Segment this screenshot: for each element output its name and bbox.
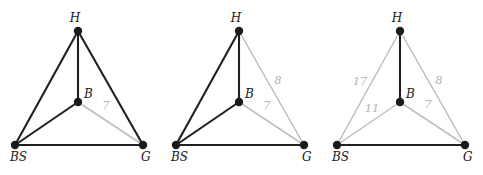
panel-1: HBBSG7 (0, 0, 161, 175)
node-label-g: G (302, 150, 312, 164)
edge-weight-b-g: 7 (263, 98, 271, 112)
node-h (74, 27, 82, 35)
node-label-b: B (405, 87, 415, 101)
edge-b-g (400, 102, 465, 145)
panel-2-canvas: HBBSG87 (161, 0, 322, 175)
node-label-g: G (141, 150, 151, 164)
node-g (139, 141, 147, 149)
edge-weight-b-bs: 11 (365, 101, 380, 115)
node-h (396, 27, 404, 35)
node-b (74, 98, 82, 106)
edge-weight-b-g: 7 (424, 97, 432, 111)
edge-weight-h-g: 8 (274, 73, 281, 87)
edge-weight-h-bs: 17 (353, 74, 368, 88)
node-label-bs: BS (9, 150, 27, 164)
node-label-b: B (83, 87, 93, 101)
edge-b-bs (176, 102, 239, 145)
edge-weight-h-g: 8 (435, 73, 442, 87)
panel-2: HBBSG87 (161, 0, 322, 175)
edge-h-bs (15, 31, 78, 145)
node-label-h: H (69, 11, 81, 25)
edge-h-bs (337, 31, 400, 145)
edge-weight-b-g: 7 (102, 98, 110, 112)
panel-3: HBBSG178117 (322, 0, 483, 175)
node-bs (11, 141, 19, 149)
graph-figure: HBBSG7HBBSG87HBBSG178117 (0, 0, 483, 175)
node-h (235, 27, 243, 35)
panel-1-canvas: HBBSG7 (0, 0, 161, 175)
node-g (300, 141, 308, 149)
edge-b-g (78, 102, 143, 145)
edge-h-bs (176, 31, 239, 145)
node-bs (333, 141, 341, 149)
panel-3-canvas: HBBSG178117 (322, 0, 483, 175)
node-b (396, 98, 404, 106)
node-b (235, 98, 243, 106)
node-label-b: B (244, 87, 254, 101)
node-label-bs: BS (170, 150, 188, 164)
node-label-h: H (391, 11, 403, 25)
edge-b-bs (15, 102, 78, 145)
node-label-bs: BS (331, 150, 349, 164)
node-g (461, 141, 469, 149)
node-bs (172, 141, 180, 149)
node-label-g: G (463, 150, 473, 164)
edge-b-g (239, 102, 304, 145)
node-label-h: H (230, 11, 242, 25)
